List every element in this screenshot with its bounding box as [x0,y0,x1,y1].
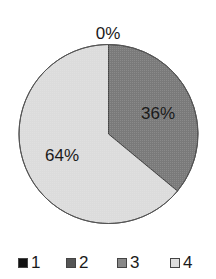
pie-chart: 0% 36% 64% [0,0,216,240]
slice-label-2: 36% [141,105,175,122]
legend-item-4: 4 [170,254,192,271]
legend-swatch-1 [18,258,28,268]
legend-swatch-3 [117,258,127,268]
pie-outline [19,45,198,224]
legend-swatch-2 [66,258,76,268]
legend-label-3: 3 [130,254,139,271]
chart-legend: 1 2 3 4 [0,254,216,274]
legend-item-3: 3 [117,254,139,271]
legend-label-2: 2 [79,254,88,271]
legend-label-1: 1 [31,254,40,271]
legend-item-2: 2 [66,254,88,271]
legend-label-4: 4 [183,254,192,271]
slice-label-1: 0% [96,25,121,42]
legend-item-1: 1 [18,254,40,271]
legend-swatch-4 [170,258,180,268]
slice-label-4: 64% [45,147,79,164]
